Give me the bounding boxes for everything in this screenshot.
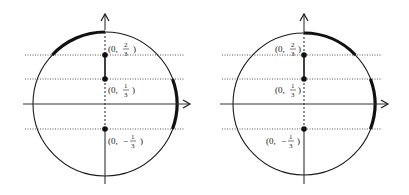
point-minus-one-third [301, 126, 307, 132]
svg-text:(0,: (0, [266, 136, 276, 146]
point-one-third [102, 76, 108, 82]
svg-text:−: − [123, 136, 128, 146]
svg-text:(0,: (0, [108, 44, 118, 54]
svg-text:1: 1 [289, 133, 293, 141]
svg-text:3: 3 [291, 50, 295, 58]
svg-text:): ) [132, 85, 135, 95]
point-two-thirds [301, 52, 307, 58]
unit-circle-figure: (0, 2 3 ) (0, 1 3 ) (0, − 1 3 ) [0, 0, 409, 195]
highlighted-arc-top-right [304, 33, 355, 55]
svg-text:): ) [298, 85, 301, 95]
label-two-thirds: (0, 2 3 ) [108, 41, 136, 58]
label-minus-one-third: (0, − 1 3 ) [266, 133, 300, 150]
svg-text:3: 3 [131, 142, 135, 150]
svg-text:): ) [133, 44, 136, 54]
left-panel: (0, 2 3 ) (0, 1 3 ) (0, − 1 3 ) [23, 14, 190, 184]
svg-text:3: 3 [289, 142, 293, 150]
svg-text:(0,: (0, [275, 44, 285, 54]
svg-text:): ) [297, 136, 300, 146]
label-one-third: (0, 1 3 ) [275, 82, 301, 99]
svg-text:1: 1 [131, 133, 135, 141]
svg-text:(0,: (0, [275, 85, 285, 95]
right-panel: (0, 2 3 ) (0, 1 3 ) (0, − 1 3 ) [220, 14, 388, 184]
svg-text:1: 1 [291, 82, 295, 90]
label-one-third: (0, 1 3 ) [108, 82, 135, 99]
svg-text:): ) [298, 44, 301, 54]
svg-text:−: − [281, 136, 286, 146]
point-two-thirds [102, 52, 108, 58]
point-minus-one-third [102, 126, 108, 132]
svg-text:(0,: (0, [108, 136, 118, 146]
svg-text:1: 1 [124, 82, 128, 90]
svg-text:): ) [140, 136, 143, 146]
point-one-third [301, 76, 307, 82]
svg-text:2: 2 [124, 41, 128, 49]
svg-text:3: 3 [291, 91, 295, 99]
svg-text:3: 3 [124, 50, 128, 58]
svg-text:3: 3 [124, 91, 128, 99]
label-minus-one-third: (0, − 1 3 ) [108, 133, 143, 150]
highlighted-arc-top-left [52, 32, 105, 55]
svg-text:2: 2 [291, 41, 295, 49]
svg-text:(0,: (0, [108, 85, 118, 95]
